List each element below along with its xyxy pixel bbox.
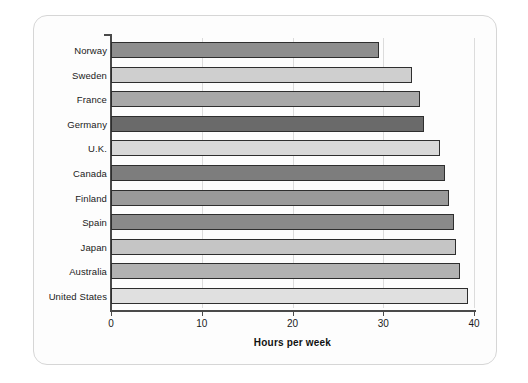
bar-row xyxy=(111,140,474,156)
category-label-sweden: Sweden xyxy=(0,70,107,81)
bar-norway[interactable] xyxy=(111,42,379,58)
category-label-norway: Norway xyxy=(0,45,107,56)
tick-label-0: 0 xyxy=(108,318,114,329)
tick-label-20: 20 xyxy=(287,318,298,329)
category-label-germany: Germany xyxy=(0,119,107,130)
gridline-40 xyxy=(474,38,475,308)
category-label-finland: Finland xyxy=(0,193,107,204)
bar-row xyxy=(111,116,474,132)
bar-row xyxy=(111,239,474,255)
tick-mark-20 xyxy=(293,310,294,316)
bar-row xyxy=(111,42,474,58)
plot-area xyxy=(111,38,474,308)
bar-row xyxy=(111,288,474,304)
category-label-japan: Japan xyxy=(0,242,107,253)
bar-row xyxy=(111,67,474,83)
bar-japan[interactable] xyxy=(111,239,456,255)
category-label-united-states: United States xyxy=(0,291,107,302)
category-label-australia: Australia xyxy=(0,266,107,277)
tick-mark-30 xyxy=(383,310,384,316)
category-label-canada: Canada xyxy=(0,168,107,179)
category-axis-labels: NorwaySwedenFranceGermanyU.K.CanadaFinla… xyxy=(0,38,107,308)
bar-row xyxy=(111,214,474,230)
tick-mark-10 xyxy=(202,310,203,316)
category-label-u-k: U.K. xyxy=(0,143,107,154)
bar-row xyxy=(111,190,474,206)
bar-canada[interactable] xyxy=(111,165,445,181)
bar-united-states[interactable] xyxy=(111,288,468,304)
bar-france[interactable] xyxy=(111,91,420,107)
category-label-france: France xyxy=(0,94,107,105)
tick-label-30: 30 xyxy=(378,318,389,329)
bar-finland[interactable] xyxy=(111,190,449,206)
chart-card: NorwaySwedenFranceGermanyU.K.CanadaFinla… xyxy=(33,15,497,365)
bar-row xyxy=(111,263,474,279)
category-label-spain: Spain xyxy=(0,217,107,228)
bar-spain[interactable] xyxy=(111,214,454,230)
tick-mark-40 xyxy=(474,310,475,316)
tick-label-40: 40 xyxy=(468,318,479,329)
tick-mark-0 xyxy=(111,310,112,316)
bar-u-k[interactable] xyxy=(111,140,440,156)
bar-germany[interactable] xyxy=(111,116,424,132)
bar-sweden[interactable] xyxy=(111,67,412,83)
bar-row xyxy=(111,91,474,107)
bar-australia[interactable] xyxy=(111,263,460,279)
x-axis-title: Hours per week xyxy=(111,337,474,348)
tick-label-10: 10 xyxy=(196,318,207,329)
bar-row xyxy=(111,165,474,181)
